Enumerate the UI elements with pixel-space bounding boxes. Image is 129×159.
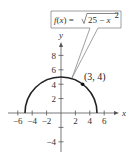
x-tick-label: 4	[88, 116, 93, 126]
x-tick-label: −4	[27, 116, 37, 126]
exponent: 2	[115, 10, 120, 20]
y-tick-label: −4	[46, 137, 56, 147]
x-tick-label: 6	[102, 116, 107, 126]
y-tick-label: 8	[52, 51, 57, 61]
radicand: 25 − x	[88, 15, 111, 25]
point-marker	[81, 82, 85, 86]
y-tick-label: 2	[52, 94, 57, 104]
y-tick-label: 6	[52, 65, 57, 75]
callout-text: f(x) =	[54, 15, 74, 25]
y-tick-label: 4	[52, 80, 57, 90]
x-tick-label: 2	[73, 116, 78, 126]
x-tick-label: −6	[13, 116, 23, 126]
y-axis-label: y	[58, 30, 63, 40]
point-label: (3, 4)	[84, 71, 106, 83]
x-axis-arrow-icon	[114, 111, 119, 115]
x-tick-label: −2	[42, 116, 52, 126]
semicircle-graph: −6 −4 −2 2 4 6 8 6 4 2 −4 x y (3, 4) f(x…	[0, 0, 129, 159]
x-axis-label: x	[121, 108, 126, 118]
y-axis-arrow-icon	[59, 42, 63, 47]
